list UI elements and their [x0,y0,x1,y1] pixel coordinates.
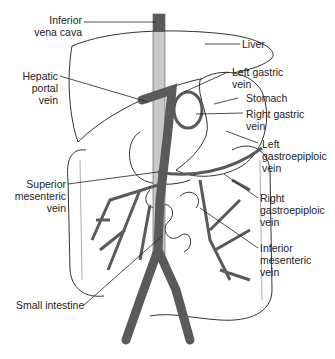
label-hepatic-portal-vein: Hepatic portal vein [14,70,58,106]
label-left-gastroepiploic-vein: Left gastroepiploic vein [262,138,327,174]
label-liver: Liver [242,38,265,50]
inferior-mesenteric-branches [200,180,250,280]
label-right-gastroepiploic-vein: Right gastroepiploic vein [260,192,325,228]
label-small-intestine: Small intestine [16,299,84,311]
label-stomach: Stomach [246,92,287,104]
label-inferior-mesenteric-vein: Inferior mesenteric vein [260,242,311,278]
label-left-gastric-vein: Left gastric vein [232,66,283,90]
vena-cava-dark-top [153,14,165,32]
label-inferior-vena-cava: Inferior vena cava [28,14,82,38]
label-superior-mesenteric-vein: Superior mesenteric vein [4,178,66,214]
superior-mesenteric-branches [92,185,158,270]
label-right-gastric-vein: Right gastric vein [246,108,304,132]
gastric-vein-ring [174,92,202,128]
